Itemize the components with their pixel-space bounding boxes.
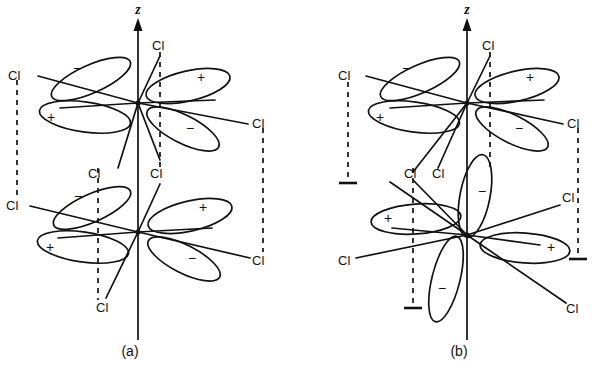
lobe-sign: + <box>197 69 205 85</box>
orbital-center-a-bottom: − + + − Cl Cl Cl <box>6 178 264 315</box>
lobe-sign: + <box>384 210 392 226</box>
ligand-label-cl: Cl <box>152 38 164 53</box>
orbital-center-b-top: − + + − Cl Cl Cl Cl Cl <box>338 38 579 181</box>
ligand-label-cl: Cl <box>96 300 108 315</box>
lobe-sign: − <box>402 60 410 76</box>
panel-caption-b: (b) <box>450 343 467 359</box>
orbital-diagram-svg: − + + − Cl Cl Cl Cl Cl <box>0 0 595 365</box>
ligand-label-cl: Cl <box>404 166 416 181</box>
lobe-sign: − <box>438 280 446 296</box>
ligand-label-cl: Cl <box>567 116 579 131</box>
orbital-center-a-top: − + + − Cl Cl Cl Cl Cl <box>8 38 264 181</box>
ligand-bonds-a-top <box>38 56 248 168</box>
lobe-sign: − <box>515 120 523 136</box>
lobe-sign: − <box>73 60 81 76</box>
ligand-label-cl: Cl <box>338 68 350 83</box>
ligand-label-cl: Cl <box>6 198 18 213</box>
ligand-bonds-a-bottom <box>30 184 250 298</box>
ligand-label-cl: Cl <box>150 166 162 181</box>
ligand-label-cl: Cl <box>8 68 20 83</box>
lobe-sign: + <box>376 109 384 125</box>
ligand-label-cl: Cl <box>252 253 264 268</box>
lobe-sign: + <box>526 69 534 85</box>
orbital-center-b-bottom: − − + + Cl Cl Cl <box>338 152 578 325</box>
lobe-sign: + <box>547 239 555 255</box>
ligand-label-cl: Cl <box>482 38 494 53</box>
ligand-label-cl: Cl <box>432 166 444 181</box>
figure-canvas: − + + − Cl Cl Cl Cl Cl <box>0 0 595 365</box>
ligand-label-cl: Cl <box>88 166 100 181</box>
lobe-sign: − <box>478 183 486 199</box>
ligand-label-cl: Cl <box>252 116 264 131</box>
lobe-sign: − <box>74 188 82 204</box>
axis-label-z: z <box>134 2 141 17</box>
ligand-label-cl: Cl <box>562 190 574 205</box>
axis-label-z: z <box>463 2 470 17</box>
ligand-label-cl: Cl <box>566 301 578 316</box>
lobe-sign: + <box>47 109 55 125</box>
panel-b: − + + − Cl Cl Cl Cl Cl <box>338 2 587 359</box>
lobe-sign: − <box>188 250 196 266</box>
lobe-sign: − <box>186 120 194 136</box>
lobe-sign: + <box>199 199 207 215</box>
lobe-sign: + <box>46 239 54 255</box>
panel-caption-a: (a) <box>121 343 138 359</box>
panel-a: − + + − Cl Cl Cl Cl Cl <box>6 2 264 359</box>
z-axis-a <box>134 18 143 340</box>
ligand-label-cl: Cl <box>338 253 350 268</box>
